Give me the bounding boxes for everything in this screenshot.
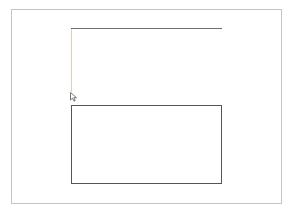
drawn-rectangle[interactable] [71,105,222,184]
top-line[interactable] [71,28,222,29]
vertical-guide-line [71,29,72,92]
mouse-pointer-icon [70,92,78,102]
